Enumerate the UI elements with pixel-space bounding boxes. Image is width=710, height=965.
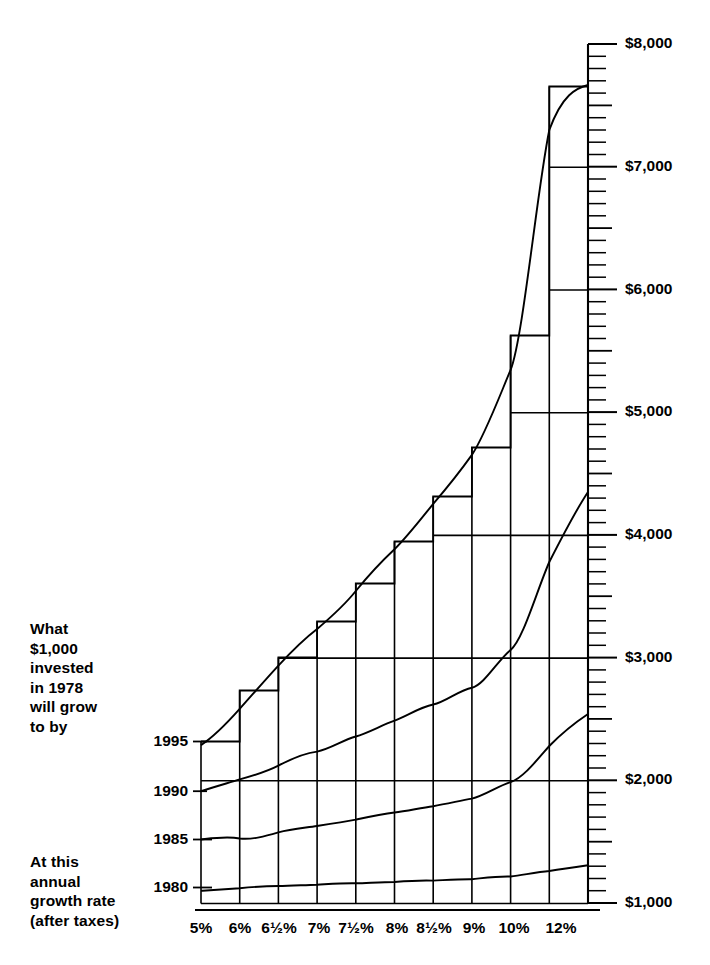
x-tick-label-8: 10%: [490, 919, 538, 937]
x-tick-label-9: 12%: [537, 919, 585, 937]
caption-top: What $1,000 invested in 1978 will grow t…: [30, 619, 180, 736]
y-tick-label-4000: $4,000: [625, 525, 705, 543]
x-tick-label-1: 6%: [220, 919, 260, 937]
x-tick-label-0: 5%: [181, 919, 221, 937]
y-tick-label-3000: $3,000: [625, 648, 705, 666]
chart-figure: What $1,000 invested in 1978 will grow t…: [0, 0, 710, 965]
y-tick-label-7000: $7,000: [625, 157, 705, 175]
year-label-1990: 1990: [100, 782, 188, 800]
year-label-1980: 1980: [100, 878, 188, 896]
grid-vertical-lines: [201, 44, 588, 904]
year-label-1995: 1995: [100, 732, 188, 750]
year-label-1985: 1985: [100, 830, 188, 848]
y-tick-label-6000: $6,000: [625, 280, 705, 298]
x-tick-label-4: 7½%: [331, 919, 381, 937]
x-tick-label-6: 8½%: [409, 919, 459, 937]
x-tick-label-2: 6½%: [255, 919, 303, 937]
x-tick-label-7: 9%: [455, 919, 493, 937]
y-tick-label-8000: $8,000: [625, 34, 705, 52]
y-tick-label-1000: $1,000: [625, 893, 705, 911]
y-axis-right: [588, 44, 617, 904]
y-tick-label-2000: $2,000: [625, 770, 705, 788]
chart-canvas: [0, 0, 710, 965]
y-tick-label-5000: $5,000: [625, 402, 705, 420]
